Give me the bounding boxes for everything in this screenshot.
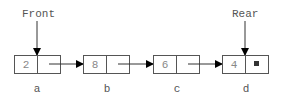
node-a-label: a: [34, 83, 41, 95]
node-c-value: 6: [162, 59, 169, 71]
node-a-value: 2: [23, 59, 30, 71]
node-a: 2 a: [15, 56, 61, 96]
node-c-label: c: [174, 83, 181, 95]
node-b: 8 b: [84, 56, 130, 96]
queue-diagram: Front Rear 2 a 8 b 6 c 4 d: [0, 0, 283, 98]
node-c: 6 c: [154, 56, 200, 96]
null-pointer-icon: [254, 61, 259, 66]
node-d: 4 d: [223, 56, 269, 96]
node-d-value: 4: [231, 59, 238, 71]
rear-pointer-label: Rear: [232, 8, 258, 20]
node-d-label: d: [243, 83, 250, 95]
front-pointer-label: Front: [22, 8, 55, 20]
node-b-value: 8: [92, 59, 99, 71]
node-b-label: b: [104, 83, 111, 95]
